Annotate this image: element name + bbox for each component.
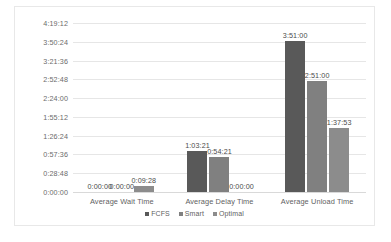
category-axis-label: Average Unload Time — [268, 197, 366, 206]
bar-slot: 0:09:28 — [134, 23, 154, 192]
bar[interactable] — [285, 41, 305, 192]
chart-container: 0:00:000:28:480:57:361:26:241:55:122:24:… — [14, 6, 375, 226]
legend-swatch-icon — [179, 212, 183, 216]
category-axis-label: Average Wait Time — [73, 197, 171, 206]
bar[interactable] — [209, 157, 229, 192]
bar-slot: 0:00:00 — [231, 23, 251, 192]
bar-slot: 0:54:21 — [209, 23, 229, 192]
legend-swatch-icon — [213, 212, 217, 216]
bar-value-label: 3:51:00 — [283, 31, 308, 40]
bar-value-label: 1:03:21 — [185, 141, 210, 150]
bar-value-label: 0:00:00 — [87, 182, 112, 191]
legend-item[interactable]: FCFS — [145, 210, 170, 217]
y-axis-tick-label: 2:52:48 — [43, 75, 68, 84]
y-axis-tick-label: 2:24:00 — [43, 94, 68, 103]
bar-group: 3:51:002:51:001:37:53Average Unload Time — [268, 23, 366, 192]
y-axis-tick-label: 4:19:12 — [43, 19, 68, 28]
bar-slot: 1:03:21 — [187, 23, 207, 192]
plot-area: 0:00:000:28:480:57:361:26:241:55:122:24:… — [73, 23, 366, 192]
y-axis-tick-label: 1:26:24 — [43, 131, 68, 140]
legend-label: FCFS — [151, 210, 170, 217]
legend-label: Optimal — [219, 210, 244, 217]
bar-value-label: 0:00:00 — [109, 182, 134, 191]
y-axis-tick-label: 0:57:36 — [43, 150, 68, 159]
bar-group: 0:00:000:00:000:09:28Average Wait Time — [73, 23, 171, 192]
gridline — [73, 192, 366, 193]
legend-swatch-icon — [145, 212, 149, 216]
bar-value-label: 0:54:21 — [207, 147, 232, 156]
bar-value-label: 0:09:28 — [131, 176, 156, 185]
bar-slot: 2:51:00 — [307, 23, 327, 192]
bar[interactable] — [187, 151, 207, 192]
chart-legend: FCFSSmartOptimal — [15, 210, 374, 217]
y-axis-tick-label: 3:50:24 — [43, 37, 68, 46]
bar-value-label: 1:37:53 — [327, 118, 352, 127]
bar-slot: 3:51:00 — [285, 23, 305, 192]
bar-value-label: 2:51:00 — [305, 71, 330, 80]
bar[interactable] — [134, 186, 154, 192]
bar-slot: 0:00:00 — [90, 23, 110, 192]
bar-value-label: 0:00:00 — [229, 182, 254, 191]
y-axis-tick-label: 0:00:00 — [43, 188, 68, 197]
bar-group: 1:03:210:54:210:00:00Average Delay Time — [171, 23, 269, 192]
bar[interactable] — [307, 81, 327, 192]
legend-label: Smart — [185, 210, 204, 217]
category-axis-label: Average Delay Time — [171, 197, 269, 206]
bar-slot: 0:00:00 — [112, 23, 132, 192]
legend-item[interactable]: Optimal — [213, 210, 244, 217]
y-axis-tick-label: 3:21:36 — [43, 56, 68, 65]
bar[interactable] — [329, 128, 349, 192]
y-axis-tick-label: 1:55:12 — [43, 112, 68, 121]
legend-item[interactable]: Smart — [179, 210, 204, 217]
bar-slot: 1:37:53 — [329, 23, 349, 192]
y-axis-tick-label: 0:28:48 — [43, 169, 68, 178]
